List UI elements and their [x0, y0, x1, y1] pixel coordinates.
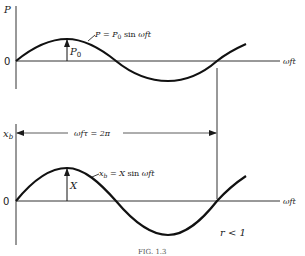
displacement-y-axis-label: xb [3, 128, 14, 141]
figure-caption: FIG. 1.3 [138, 248, 167, 256]
frequency-ratio-condition: r < 1 [220, 227, 246, 238]
force-curve-leader [88, 35, 95, 41]
forced-vibration-diagram: P 0 ωft P0 P = P0 sin ωft ωfτ = 2π xb 0 … [0, 0, 305, 256]
period-label: ωfτ = 2π [74, 129, 111, 138]
displacement-plot: xb 0 ωft X xb = X sin ωft r < 1 [3, 124, 296, 245]
force-curve-label: P = P0 sin ωft [94, 30, 152, 40]
force-amplitude-label: P0 [69, 46, 81, 59]
force-origin-label: 0 [4, 56, 10, 67]
force-x-axis-label: ωft [283, 57, 296, 66]
displacement-origin-label: 0 [3, 196, 9, 207]
displacement-curve-leader [92, 174, 99, 177]
force-y-axis-label: P [3, 4, 11, 15]
displacement-curve-label: xb = X sin ωft [99, 169, 155, 179]
force-plot: P 0 ωft P0 P = P0 sin ωft [3, 4, 296, 89]
displacement-x-axis-label: ωft [283, 197, 296, 206]
period-marker: ωfτ = 2π [17, 68, 217, 199]
force-sine-curve [16, 39, 246, 81]
displacement-amplitude-label: X [69, 180, 78, 191]
